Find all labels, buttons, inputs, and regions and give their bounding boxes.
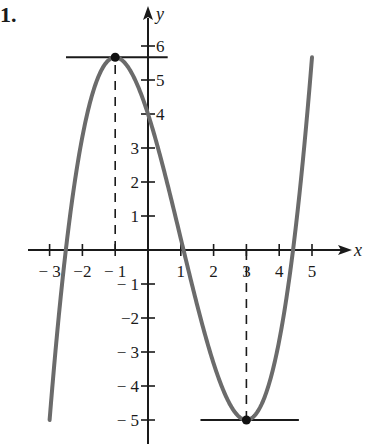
y-tick-label: 5 (156, 71, 165, 90)
function-graph: xy − 3−2− 112345654321− 1−2− 3− 4− 5 (0, 0, 365, 444)
local-minimum-point (242, 416, 251, 425)
x-tick-label: 4 (275, 262, 284, 281)
x-tick-label: − 3 (38, 262, 60, 281)
x-tick-label: 1 (177, 262, 186, 281)
x-tick-label: 5 (308, 262, 317, 281)
y-axis-label: y (154, 4, 164, 24)
x-tick-label: 2 (209, 262, 218, 281)
y-tick-label: − 4 (117, 377, 140, 396)
y-tick-label: 1 (131, 207, 140, 226)
local-maximum-point (111, 53, 120, 62)
curve (50, 57, 312, 420)
y-tick-label: −2 (121, 309, 139, 328)
y-axis-arrow-icon (143, 6, 153, 20)
x-tick-label: −2 (73, 262, 91, 281)
y-tick-label: 2 (131, 173, 140, 192)
y-tick-label: 6 (156, 37, 165, 56)
y-tick-label: 4 (156, 105, 165, 124)
y-tick-label: − 3 (117, 343, 139, 362)
y-tick-label: 3 (131, 139, 140, 158)
function-curve (50, 57, 312, 420)
y-tick-label: − 1 (117, 275, 139, 294)
x-axis-label: x (353, 240, 362, 260)
y-tick-label: − 5 (117, 411, 139, 430)
